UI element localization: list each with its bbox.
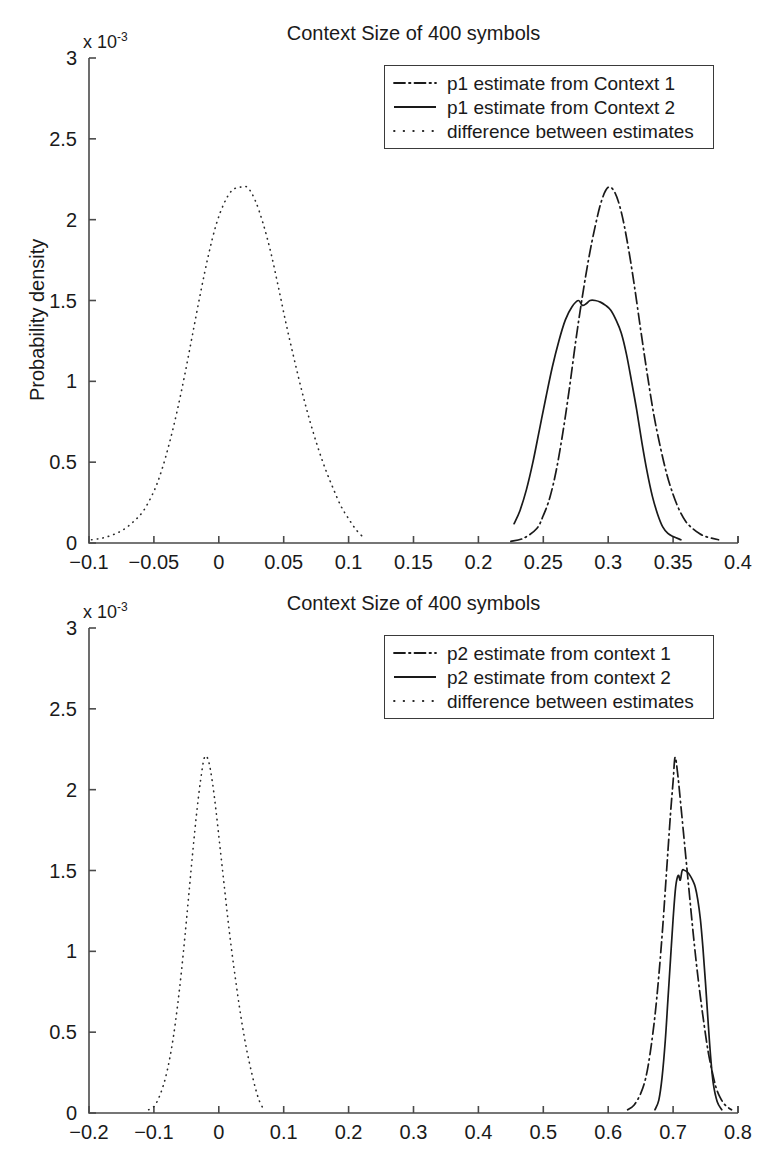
x-tick-label: 0.3	[400, 1121, 428, 1144]
y-tick-label: 1	[0, 370, 77, 393]
y-tick-label: 2	[0, 208, 77, 231]
x-tick-label: 0	[213, 1121, 224, 1144]
y-tick-label: 3	[0, 617, 77, 640]
y-tick-label: 0	[0, 532, 77, 555]
y-exponent-power: -3	[117, 600, 128, 614]
x-tick-label: 0.5	[529, 1121, 557, 1144]
y-tick-label: 1	[0, 940, 77, 963]
legend-label: p1 estimate from Context 2	[447, 98, 675, 117]
legend-label: p2 estimate from context 1	[447, 644, 671, 663]
legend-swatch-dotted	[392, 121, 438, 141]
legend-bottom: p2 estimate from context 1 p2 estimate f…	[384, 635, 714, 719]
y-exponent-power: -3	[117, 30, 128, 44]
x-tick-label: 0.1	[270, 1121, 298, 1144]
y-exponent-text: x 10	[83, 602, 117, 622]
y-tick-label: 2.5	[0, 127, 77, 150]
y-tick-label: 1.5	[0, 289, 77, 312]
x-tick-label: 0.4	[464, 1121, 492, 1144]
legend-swatch-dashdot	[392, 73, 438, 93]
x-tick-label: 0.6	[594, 1121, 622, 1144]
chart-panel-bottom: Context Size of 400 symbols x 10-3 −0.2−…	[0, 570, 762, 1169]
page-title-top: Context Size of 400 symbols	[287, 22, 540, 45]
y-exponent-text: x 10	[83, 32, 117, 52]
y-tick-label: 0.5	[0, 1021, 77, 1044]
chart-panel-top: Context Size of 400 symbols x 10-3 Proba…	[0, 0, 762, 585]
legend-swatch-solid	[392, 97, 438, 117]
y-tick-label: 2	[0, 778, 77, 801]
legend-item: difference between estimates	[392, 689, 704, 713]
legend-label: difference between estimates	[447, 692, 694, 711]
y-tick-label: 3	[0, 47, 77, 70]
legend-label: p2 estimate from context 2	[447, 668, 671, 687]
legend-label: p1 estimate from Context 1	[447, 74, 675, 93]
legend-swatch-solid	[392, 667, 438, 687]
y-tick-label: 2.5	[0, 697, 77, 720]
y-axis-exponent-top: x 10-3	[83, 32, 128, 53]
legend-item: p1 estimate from Context 2	[392, 95, 704, 119]
y-tick-label: 0.5	[0, 451, 77, 474]
legend-top: p1 estimate from Context 1 p1 estimate f…	[384, 65, 714, 149]
y-tick-label: 1.5	[0, 859, 77, 882]
legend-label: difference between estimates	[447, 122, 694, 141]
legend-swatch-dotted	[392, 691, 438, 711]
page-title-bottom: Context Size of 400 symbols	[287, 592, 540, 615]
x-tick-label: 0.7	[659, 1121, 687, 1144]
figure-container: Context Size of 400 symbols x 10-3 Proba…	[0, 0, 762, 1169]
legend-item: difference between estimates	[392, 119, 704, 143]
x-tick-label: −0.1	[134, 1121, 173, 1144]
legend-swatch-dashdot	[392, 643, 438, 663]
x-tick-label: 0.8	[724, 1121, 752, 1144]
legend-item: p2 estimate from context 2	[392, 665, 704, 689]
x-tick-label: 0.2	[335, 1121, 363, 1144]
y-tick-label: 0	[0, 1102, 77, 1125]
y-axis-exponent-bottom: x 10-3	[83, 602, 128, 623]
legend-item: p2 estimate from context 1	[392, 641, 704, 665]
legend-item: p1 estimate from Context 1	[392, 71, 704, 95]
